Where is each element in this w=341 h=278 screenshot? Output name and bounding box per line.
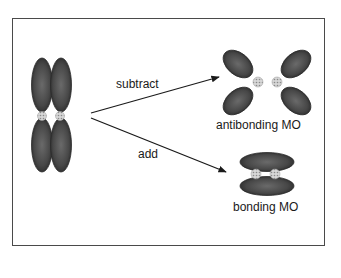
bonding-mo-label: bonding MO bbox=[233, 200, 298, 214]
antibonding-mo-shape bbox=[218, 45, 316, 121]
antibonding-lobe-upper-left bbox=[218, 45, 258, 84]
bonding-nucleus-1 bbox=[251, 169, 261, 179]
p-orbital-1-upper-lobe bbox=[32, 58, 53, 112]
p-orbital-2-lower-lobe bbox=[51, 118, 72, 172]
p-orbital-1-lower-lobe bbox=[32, 118, 53, 172]
orbital-diagram bbox=[0, 0, 341, 278]
p-orbital-2-upper-lobe bbox=[51, 58, 72, 112]
antibonding-nucleus-1 bbox=[253, 77, 263, 87]
antibonding-lobe-lower-left bbox=[218, 82, 258, 121]
antibonding-mo-label: antibonding MO bbox=[216, 118, 301, 132]
bonding-mo-shape bbox=[240, 153, 294, 196]
bonding-lobe-upper bbox=[240, 153, 294, 172]
p-orbitals-left bbox=[32, 58, 72, 172]
bonding-lobe-lower bbox=[240, 177, 294, 196]
antibonding-lobe-lower-right bbox=[276, 82, 316, 121]
subtract-label: subtract bbox=[116, 77, 159, 91]
add-label: add bbox=[138, 147, 158, 161]
nucleus-2 bbox=[56, 112, 65, 121]
add-arrow bbox=[91, 118, 226, 172]
bonding-nucleus-2 bbox=[270, 169, 280, 179]
nucleus-1 bbox=[38, 112, 47, 121]
antibonding-lobe-upper-right bbox=[276, 45, 316, 84]
antibonding-nucleus-2 bbox=[272, 77, 282, 87]
